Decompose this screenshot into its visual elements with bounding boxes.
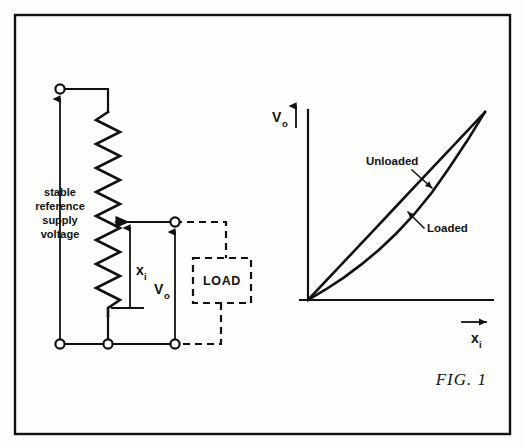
output-bottom-terminal [170, 339, 179, 348]
response-chart: V o x i Unloaded Loaded [272, 106, 493, 350]
chart-x-axis-label: x [471, 330, 479, 346]
chart-x-axis-label-subscript: i [479, 339, 482, 350]
figure-page: stable reference supply voltage x i V o … [0, 0, 525, 448]
vo-label: V [154, 281, 164, 297]
supply-top-terminal [55, 84, 64, 93]
supply-label-line-2: reference [35, 200, 85, 212]
output-top-terminal [170, 217, 179, 226]
curve-unloaded [308, 112, 485, 300]
potentiometer-resistor-symbol [96, 112, 120, 316]
xi-label: x [136, 262, 144, 278]
supply-label-line-4: voltage [41, 228, 80, 240]
figure-caption: FIG. 1 [435, 370, 487, 389]
figure-canvas: stable reference supply voltage x i V o … [0, 0, 525, 448]
potentiometer-circuit: stable reference supply voltage x i V o … [35, 84, 251, 348]
chart-y-axis-label: V [272, 109, 282, 125]
supply-bottom-terminal [55, 339, 64, 348]
supply-label-line-1: stable [44, 186, 76, 198]
curve-loaded-label: Loaded [427, 222, 468, 234]
supply-label-line-3: supply [42, 214, 78, 226]
vo-label-subscript: o [164, 290, 170, 301]
load-top-wire [175, 222, 226, 258]
load-bottom-wire [175, 303, 221, 344]
curve-unloaded-label: Unloaded [366, 155, 418, 167]
chart-y-axis-label-subscript: o [282, 118, 288, 129]
supply-top-wire [60, 89, 108, 112]
pot-bottom-terminal [103, 339, 112, 348]
xi-label-subscript: i [144, 271, 147, 282]
load-box-label: LOAD [203, 274, 241, 288]
